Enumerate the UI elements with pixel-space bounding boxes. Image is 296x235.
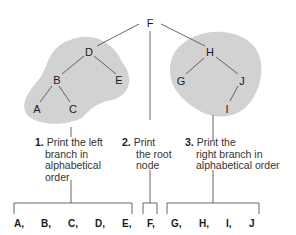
node-B: B bbox=[53, 74, 60, 86]
step-line: node bbox=[122, 160, 172, 172]
step-line: alphabetical bbox=[35, 160, 103, 172]
output-item: I, bbox=[226, 218, 232, 229]
step-line: Print the left bbox=[47, 136, 103, 148]
output-item: F, bbox=[147, 218, 155, 229]
output-item: J bbox=[249, 218, 255, 229]
output-item: D, bbox=[95, 218, 105, 229]
node-I: I bbox=[225, 103, 228, 115]
tree-diagram: F D B E A C H G J I A, B, C, D, E, F, G,… bbox=[0, 0, 296, 235]
node-G: G bbox=[177, 75, 186, 87]
node-A: A bbox=[33, 103, 41, 115]
step-3-text: 3. Print the right branch in alphabetica… bbox=[185, 137, 279, 172]
step-number: 3. bbox=[185, 136, 194, 148]
step-line: alphabetical order bbox=[185, 160, 279, 172]
output-item: C, bbox=[68, 218, 78, 229]
step-1-text: 1. Print the left branch in alphabetical… bbox=[35, 137, 103, 183]
step-2-text: 2. Print the root node bbox=[122, 137, 172, 172]
step-line: Print bbox=[134, 136, 156, 148]
step-number: 2. bbox=[122, 136, 131, 148]
output-item: A, bbox=[14, 218, 24, 229]
step-number: 1. bbox=[35, 136, 44, 148]
step-line: Print the bbox=[197, 136, 236, 148]
node-D: D bbox=[85, 46, 93, 58]
output-item: G, bbox=[171, 218, 182, 229]
output-item: B, bbox=[41, 218, 51, 229]
node-J: J bbox=[239, 75, 245, 87]
output-item: H, bbox=[199, 218, 209, 229]
node-H: H bbox=[206, 46, 214, 58]
node-C: C bbox=[69, 103, 77, 115]
step-line: order bbox=[35, 172, 103, 184]
node-F: F bbox=[147, 17, 154, 29]
output-item: E, bbox=[122, 218, 132, 229]
node-E: E bbox=[115, 74, 122, 86]
